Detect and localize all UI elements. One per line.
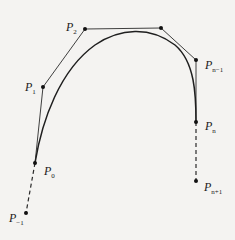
label-p-n-1: Pn−1 xyxy=(204,58,224,74)
point-p-n-plus-1 xyxy=(194,179,198,183)
spline-curve xyxy=(35,31,196,163)
dashed-extension-start xyxy=(26,163,35,213)
point-p-minus-1 xyxy=(24,211,28,215)
point-p-n xyxy=(194,120,198,124)
label-p-minus-1: P−1 xyxy=(8,211,24,227)
point-p-n-2 xyxy=(159,26,163,30)
label-p-n: Pn xyxy=(204,119,216,135)
control-points xyxy=(24,26,198,215)
point-p0 xyxy=(33,161,37,165)
point-p1 xyxy=(41,85,45,89)
spline-diagram: P−1 P0 P1 P2 Pn−1 Pn Pn+1 xyxy=(0,0,235,240)
label-p1: P1 xyxy=(24,80,36,96)
label-p2: P2 xyxy=(65,20,77,36)
label-p-n-plus-1: Pn+1 xyxy=(203,180,223,196)
control-polygon xyxy=(35,28,196,163)
label-p0: P0 xyxy=(43,164,55,180)
point-p-n-1 xyxy=(194,58,198,62)
point-p2 xyxy=(83,27,87,31)
